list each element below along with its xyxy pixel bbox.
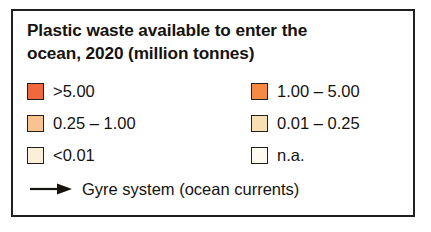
- legend-row: >5.00 1.00 – 5.00: [27, 75, 401, 107]
- legend-item-na[interactable]: n.a.: [251, 139, 401, 171]
- swatch-lt-001: [27, 147, 44, 164]
- legend-item-001-to-025[interactable]: 0.01 – 0.25: [251, 107, 401, 139]
- legend-item-lt-001[interactable]: <0.01: [27, 139, 251, 171]
- legend-item-1-to-5[interactable]: 1.00 – 5.00: [251, 75, 401, 107]
- legend-item-label: Gyre system (ocean currents): [82, 181, 299, 198]
- swatch-001-to-025: [251, 115, 268, 132]
- legend-item-label: <0.01: [53, 147, 95, 164]
- swatch-025-to-1: [27, 115, 44, 132]
- swatch-na: [251, 147, 268, 164]
- arrow-right-icon: [29, 181, 73, 197]
- legend-item-label: >5.00: [53, 83, 95, 100]
- legend-item-label: 0.01 – 0.25: [277, 115, 360, 132]
- swatch-1-to-5: [251, 83, 268, 100]
- legend-item-gt-5[interactable]: >5.00: [27, 75, 251, 107]
- legend-title: Plastic waste available to enter the oce…: [27, 19, 397, 65]
- legend-item-label: n.a.: [277, 147, 305, 164]
- legend-entries-grid: >5.00 1.00 – 5.00 0.25 – 1.00 0.01 – 0.2…: [27, 75, 401, 205]
- legend-item-025-to-1[interactable]: 0.25 – 1.00: [27, 107, 251, 139]
- legend-item-label: 1.00 – 5.00: [277, 83, 360, 100]
- legend-row: 0.25 – 1.00 0.01 – 0.25: [27, 107, 401, 139]
- legend-row: <0.01 n.a.: [27, 139, 401, 171]
- map-legend-panel: Plastic waste available to enter the oce…: [11, 9, 415, 217]
- legend-item-label: 0.25 – 1.00: [53, 115, 136, 132]
- swatch-gt-5: [27, 83, 44, 100]
- legend-item-gyre-system[interactable]: Gyre system (ocean currents): [27, 173, 401, 205]
